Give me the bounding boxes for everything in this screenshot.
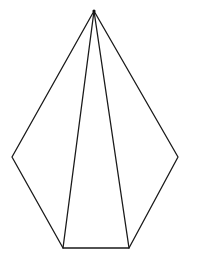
pentagon-diagram [0,0,197,258]
pentagon-outline [12,11,178,248]
diagonal-apex-to-bottom-right [94,11,129,248]
diagonals-group [63,11,129,248]
diagonal-apex-to-bottom-left [63,11,94,248]
apex-vertex-marker [92,9,95,12]
